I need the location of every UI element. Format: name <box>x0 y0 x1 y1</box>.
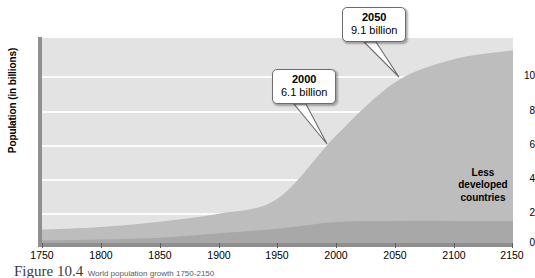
caption-figure-number: Figure 10.4 <box>14 263 83 278</box>
callout-2050: 2050 9.1 billion <box>342 7 406 42</box>
callout-2050-value: 9.1 billion <box>351 24 397 37</box>
figure-container: Population (in billions) 10 8 6 4 2 0 Le… <box>0 0 535 278</box>
callout-2000-year: 2000 <box>281 73 327 86</box>
callout-2000-value: 6.1 billion <box>281 86 327 99</box>
callout-2000: 2000 6.1 billion <box>272 69 336 104</box>
caption-text: World population growth 1750-2150 <box>88 269 215 278</box>
callout-pointer-2050 <box>0 0 535 278</box>
callout-2050-year: 2050 <box>351 11 397 24</box>
figure-caption: Figure 10.4 World population growth 1750… <box>14 262 534 278</box>
